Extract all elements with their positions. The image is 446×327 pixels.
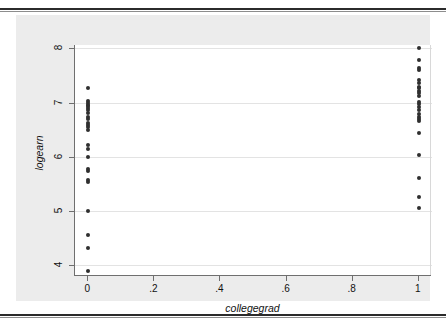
plot-frame-right-edge [430,45,431,275]
scatter-point [417,58,421,62]
scatter-point [417,206,421,210]
scatter-point [417,131,421,135]
scatter-point [86,128,90,132]
scatter-point [417,108,421,112]
scatter-point [86,269,90,273]
x-tick-label: .8 [337,283,367,294]
scatter-point [417,119,421,123]
gridline-y [75,265,432,266]
y-tick [69,157,74,158]
gridline-y [75,103,432,104]
y-tick [69,48,74,49]
y-tick [69,103,74,104]
page-rule-top-secondary [0,11,446,12]
scatter-point [417,94,421,98]
y-tick-label: 5 [53,202,64,218]
scatter-point [86,209,90,213]
x-tick [153,276,154,281]
scatter-point [86,147,90,151]
page-rule-bottom-secondary [0,317,446,318]
y-tick [69,211,74,212]
y-axis-line [74,45,75,276]
scatter-point [86,233,90,237]
gridline-y [75,211,432,212]
page-rule-bottom [0,314,446,316]
scatter-point [417,176,421,180]
page-rule-top [0,8,446,10]
gridline-y [75,157,432,158]
x-tick-label: 1 [403,283,433,294]
plot-area [74,45,432,275]
scatter-point [86,155,90,159]
y-tick-label: 7 [53,94,64,110]
x-tick [87,276,88,281]
y-tick-label: 8 [53,40,64,56]
scatter-point [417,195,421,199]
x-tick [286,276,287,281]
x-tick-label: .2 [138,283,168,294]
x-tick [352,276,353,281]
scatter-point [86,180,90,184]
scatter-point [86,169,90,173]
y-axis-title: logearn [33,123,45,183]
y-tick-label: 4 [53,257,64,273]
stata-graph-region: 0.2.4.6.81 45678 collegegrad logearn [16,15,430,301]
x-tick-label: 0 [72,283,102,294]
y-tick [69,265,74,266]
scatter-point [417,68,421,72]
scatter-point [417,153,421,157]
x-tick-label: .4 [204,283,234,294]
scatter-point [86,86,90,90]
x-tick [219,276,220,281]
scatter-point [417,46,421,50]
x-tick [418,276,419,281]
x-tick-label: .6 [271,283,301,294]
x-axis-title: collegegrad [74,302,431,314]
scatter-point [86,246,90,250]
y-tick-label: 6 [53,148,64,164]
gridline-y [75,48,432,49]
x-axis-line [74,275,431,276]
screenshot-page: 0.2.4.6.81 45678 collegegrad logearn [0,0,446,327]
